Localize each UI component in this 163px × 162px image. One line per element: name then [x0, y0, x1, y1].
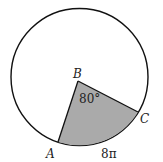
label-C: C	[140, 112, 149, 126]
circle-diagram: B 80° C A 8π	[0, 0, 163, 162]
angle-label: 80°	[79, 92, 100, 106]
label-B: B	[72, 67, 82, 81]
arc-label: 8π	[101, 147, 117, 161]
label-A: A	[45, 147, 55, 161]
